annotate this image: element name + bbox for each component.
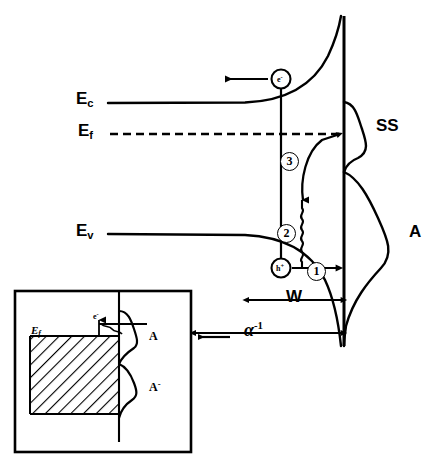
electron-symbol-label: e- [277,74,283,84]
process-3-badge: 3 [280,152,299,171]
diagram-canvas [0,0,441,470]
conduction-band-label: Ec [76,90,94,109]
inset-electron-symbol-label: e- [93,311,99,321]
acceptor-peak-label: A [409,223,421,240]
process-2-wavy-arrow [301,200,303,268]
absorption-depth-label: α-1 [244,320,263,339]
inset-filled-band [30,336,119,414]
conduction-band-curve [108,16,341,103]
valence-band-label: Ev [76,222,94,241]
process-2-badge: 2 [277,224,296,243]
surface-state-peak-curve [344,102,366,172]
acceptor-peak-curve [344,172,388,346]
hole-symbol-label: h+ [276,263,284,273]
inset-acceptor-neutral-label: A [149,330,158,342]
inset-fermi-label: Ef [31,325,41,338]
surface-states-label: SS [376,117,399,134]
process-1-badge: 1 [307,262,326,281]
process-3-curved-arrow [302,135,337,200]
inset-group [15,291,230,452]
band-diagram-figure: Ec Ef Ev SS A W α-1 e- h+ 1 2 3 Ef A A- … [0,0,441,470]
depletion-width-label: W [286,288,302,305]
inset-acceptor-charged-label: A- [149,380,161,393]
fermi-level-label: Ef [78,122,93,141]
